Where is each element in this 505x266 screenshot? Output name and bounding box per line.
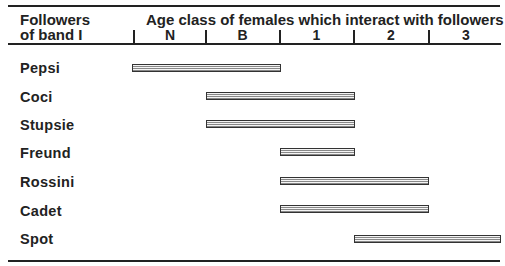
interaction-bar-rossini (280, 177, 429, 185)
age-class-title: Age class of females which interact with… (146, 12, 504, 28)
interaction-bar-stupsie (206, 120, 355, 128)
row-label-pepsi: Pepsi (20, 60, 60, 76)
interaction-bar-coci (206, 92, 355, 100)
row-label-coci: Coci (20, 89, 53, 105)
row-label-cadet: Cadet (20, 203, 62, 219)
interaction-bar-freund (280, 148, 355, 156)
row-label-spot: Spot (20, 231, 53, 247)
bottom-rule (8, 260, 500, 262)
top-rule (8, 5, 500, 7)
interaction-bar-spot (354, 235, 501, 243)
column-header-2: 2 (354, 27, 428, 43)
column-header-1: 1 (280, 27, 353, 43)
column-header-n: N (134, 27, 206, 43)
row-label-stupsie: Stupsie (20, 117, 74, 133)
row-label-freund: Freund (20, 145, 71, 161)
followers-header-line2: of band I (20, 27, 83, 43)
column-header-b: B (206, 27, 279, 43)
interaction-bar-cadet (280, 205, 429, 213)
row-label-rossini: Rossini (20, 174, 74, 190)
interaction-bar-pepsi (132, 64, 281, 72)
header-rule (8, 43, 501, 45)
column-header-3: 3 (429, 27, 503, 43)
